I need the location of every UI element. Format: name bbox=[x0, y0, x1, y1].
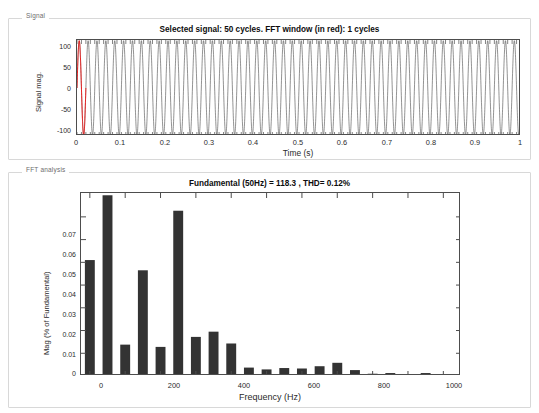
fft-xtick-0: 0 bbox=[90, 381, 112, 390]
fft-ytick-007: 0.07 bbox=[52, 231, 76, 238]
fft-bar bbox=[209, 332, 219, 375]
fft-ytick-005: 0.05 bbox=[52, 271, 76, 278]
fft-bar bbox=[385, 373, 395, 375]
fft-bar bbox=[350, 370, 360, 375]
fft-ytick-001: 0.01 bbox=[52, 351, 76, 358]
fft-ytick-003: 0.03 bbox=[52, 311, 76, 318]
fft-bar bbox=[421, 373, 431, 375]
fft-y-axis-label: Mag (% of Fundamental) bbox=[42, 271, 51, 355]
fft-plot: Fundamental (50Hz) = 118.3 , THD= 0.12% … bbox=[0, 0, 539, 413]
fft-bar bbox=[156, 347, 166, 375]
fft-bar bbox=[279, 368, 289, 375]
fft-bar bbox=[173, 211, 183, 375]
fft-bar bbox=[138, 270, 148, 375]
fft-xtick-1000: 1000 bbox=[437, 381, 471, 390]
fft-x-axis-label: Frequency (Hz) bbox=[80, 392, 460, 402]
fft-bar bbox=[226, 343, 236, 375]
fft-ytick-002: 0.02 bbox=[52, 331, 76, 338]
fft-ytick-004: 0.04 bbox=[52, 291, 76, 298]
fft-bar bbox=[120, 345, 130, 375]
fft-bar bbox=[315, 366, 325, 375]
fft-xtick-200: 200 bbox=[159, 381, 189, 390]
fft-bar bbox=[191, 337, 201, 375]
fft-plot-title: Fundamental (50Hz) = 118.3 , THD= 0.12% bbox=[0, 179, 539, 188]
fft-xtick-400: 400 bbox=[229, 381, 259, 390]
fft-bar bbox=[244, 368, 254, 375]
fft-ytick-006: 0.06 bbox=[52, 251, 76, 258]
fft-xtick-800: 800 bbox=[369, 381, 399, 390]
fft-axes bbox=[80, 192, 460, 375]
fft-bar bbox=[103, 195, 113, 375]
fft-xtick-600: 600 bbox=[299, 381, 329, 390]
fft-bar bbox=[85, 260, 95, 375]
fft-bars bbox=[81, 193, 460, 375]
fft-ytick-0: 0 bbox=[52, 370, 76, 377]
